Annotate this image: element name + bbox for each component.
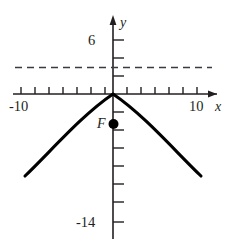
y-axis-arrow-icon (110, 15, 117, 25)
x-tick-label-10: 10 (189, 99, 204, 114)
x-axis-arrow-icon (208, 91, 217, 98)
y-tick-label-6: 6 (88, 33, 95, 48)
focus-point-label: F (97, 117, 106, 131)
y-tick-label-neg-14: -14 (76, 215, 95, 230)
y-axis-label: y (120, 16, 126, 30)
plot-canvas (0, 0, 231, 247)
x-axis-label: x (215, 100, 221, 114)
x-axis-ticks (21, 87, 197, 94)
parabola-figure: 6 -10 10 -14 y x F (0, 0, 231, 247)
x-tick-label-neg-10: -10 (9, 99, 28, 114)
focus-point-dot (109, 119, 119, 129)
